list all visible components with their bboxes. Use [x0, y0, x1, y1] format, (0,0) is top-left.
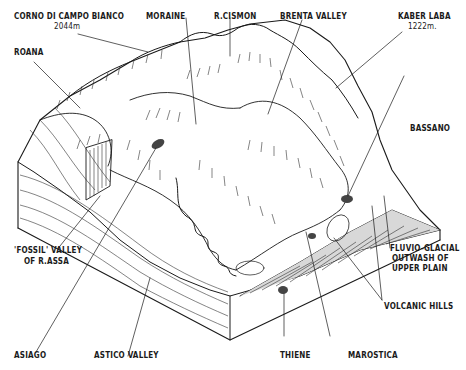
- label-volcanic-hills: VOLCANIC HILLS: [384, 302, 453, 312]
- town-asiago: [150, 137, 166, 151]
- leader-kaber: [336, 32, 402, 88]
- label-corno-elevation: 2044m: [54, 22, 80, 32]
- label-fossil-valley-2: OF R.ASSA: [24, 257, 69, 267]
- label-asiago: ASIAGO: [14, 351, 46, 361]
- label-fluvio-glacial-1: FLUVIO-GLACIAL: [390, 244, 460, 254]
- label-fluvio-glacial-2: OUTWASH OF: [392, 254, 449, 264]
- leader-fossil: [60, 196, 100, 246]
- label-bassano: BASSANO: [410, 124, 450, 134]
- label-fossil-valley-1: 'FOSSIL' VALLEY: [14, 246, 82, 256]
- label-kaber-elevation: 1222m.: [408, 22, 437, 32]
- block-diagram: [0, 0, 466, 370]
- label-corno-di-campo-bianco: CORNO DI CAMPO BIANCO: [14, 12, 124, 22]
- label-astico-valley: ASTICO VALLEY: [94, 351, 159, 361]
- town-thiene: [278, 286, 288, 294]
- label-brenta-valley: BRENTA VALLEY: [280, 12, 347, 22]
- label-roana: ROANA: [14, 48, 44, 58]
- leader-brenta: [268, 20, 302, 114]
- label-marostica: MAROSTICA: [348, 351, 398, 361]
- towns: [150, 137, 353, 294]
- leader-roana: [34, 62, 80, 108]
- town-bassano: [341, 195, 353, 203]
- leader-corno: [78, 34, 148, 52]
- label-moraine: MORAINE: [146, 12, 185, 22]
- block-outline: [18, 20, 440, 340]
- label-fluvio-glacial-3: UPPER PLAIN: [392, 264, 448, 274]
- label-thiene: THIENE: [280, 351, 311, 361]
- left-face-strata: [20, 108, 228, 328]
- fossil-valley-cliff: [86, 140, 112, 200]
- leader-bassano: [348, 76, 404, 196]
- town-marostica: [308, 233, 316, 239]
- label-r-cismon: R.CISMON: [214, 12, 256, 22]
- leader-astico: [128, 278, 150, 356]
- label-kaber-laba: KABER LABA: [398, 12, 451, 22]
